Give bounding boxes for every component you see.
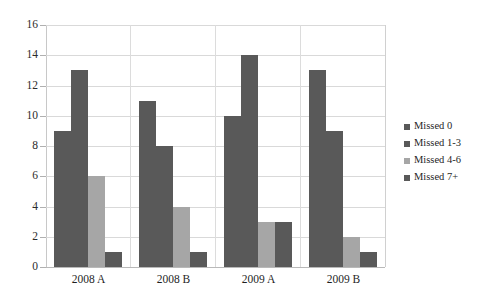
legend-swatch-icon: [404, 158, 410, 164]
y-axis-tick-label: 2: [4, 231, 38, 243]
axis-baseline: [46, 267, 385, 268]
legend-swatch-icon: [404, 124, 410, 130]
bar: [88, 176, 105, 267]
bar-groups: [46, 25, 385, 267]
y-axis-tick-label: 12: [4, 80, 38, 92]
cropped-title-artifact: [10, 0, 90, 6]
chart-legend: Missed 0Missed 1-3Missed 4-6Missed 7+: [404, 118, 486, 186]
bar: [360, 252, 377, 267]
bar: [343, 237, 360, 267]
legend-item[interactable]: Missed 7+: [404, 169, 486, 186]
bar: [156, 146, 173, 267]
legend-item[interactable]: Missed 0: [404, 118, 486, 135]
legend-item-label: Missed 4-6: [414, 155, 461, 166]
x-axis-category-label: 2009 A: [216, 270, 301, 290]
y-axis-tick-label: 8: [4, 140, 38, 152]
bar-group: [131, 25, 216, 267]
legend-swatch-icon: [404, 175, 410, 181]
bar: [190, 252, 207, 267]
legend-swatch-icon: [404, 141, 410, 147]
bar: [173, 207, 190, 268]
legend-item-label: Missed 1-3: [414, 138, 461, 149]
y-axis-tick-label: 4: [4, 201, 38, 213]
bar: [105, 252, 122, 267]
y-axis-tick-label: 6: [4, 170, 38, 182]
y-axis-labels: 1614121086420: [0, 25, 38, 267]
x-axis-labels: 2008 A2008 B2009 A2009 B: [46, 270, 386, 290]
legend-item-label: Missed 0: [414, 121, 452, 132]
bar: [139, 101, 156, 267]
y-axis-tick-label: 16: [4, 19, 38, 31]
bar: [275, 222, 292, 267]
bar-group: [216, 25, 301, 267]
bar-group: [46, 25, 131, 267]
plot-area: [46, 25, 386, 267]
bar: [54, 131, 71, 267]
bar: [224, 116, 241, 267]
x-axis-category-label: 2009 B: [301, 270, 386, 290]
bar: [241, 55, 258, 267]
y-axis-tick-label: 14: [4, 49, 38, 61]
legend-item[interactable]: Missed 1-3: [404, 135, 486, 152]
legend-item[interactable]: Missed 4-6: [404, 152, 486, 169]
legend-item-label: Missed 7+: [414, 172, 458, 183]
bar: [258, 222, 275, 267]
bar-chart: 1614121086420 2008 A2008 B2009 A2009 B M…: [0, 0, 486, 301]
x-axis-category-label: 2008 B: [131, 270, 216, 290]
bar: [309, 70, 326, 267]
bar: [326, 131, 343, 267]
bar: [71, 70, 88, 267]
y-axis-tick-label: 0: [4, 261, 38, 273]
x-axis-category-label: 2008 A: [46, 270, 131, 290]
bar-group: [301, 25, 385, 267]
y-axis-tick-label: 10: [4, 110, 38, 122]
